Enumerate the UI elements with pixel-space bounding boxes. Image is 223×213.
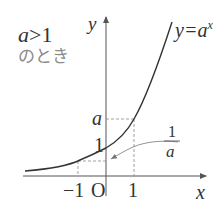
tick-x-neg-one: −1 <box>63 180 84 200</box>
x-axis-label: x <box>196 182 205 202</box>
curve-label-prefix: y= <box>175 19 197 41</box>
condition-inequality: >1 <box>29 22 52 47</box>
origin-label: O <box>91 180 105 200</box>
curve-label: y=ax <box>175 19 213 40</box>
condition-label: a>1 のとき <box>18 22 69 67</box>
annotation-numerator: 1 <box>168 124 176 140</box>
condition-note: のとき <box>18 47 69 67</box>
tick-y-one: 1 <box>94 135 104 155</box>
tick-y-a: a <box>92 108 102 128</box>
annotation-denominator: a <box>166 143 175 160</box>
tick-x-one: 1 <box>128 180 138 200</box>
y-axis-label: y <box>88 14 96 33</box>
curve-label-exponent: x <box>207 18 212 32</box>
curve-label-base: a <box>197 19 207 41</box>
condition-variable: a <box>18 22 29 47</box>
